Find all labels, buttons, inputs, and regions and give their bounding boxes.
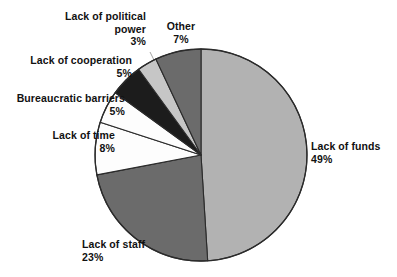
slice-label-bureaucratic-barriers: Bureaucratic barriers 5% <box>8 92 125 117</box>
slice-label-percent: 49% <box>311 153 381 166</box>
pie-slice-lack-of-funds[interactable] <box>201 49 307 261</box>
slice-label-name: Lack of cooperation <box>30 54 132 66</box>
slice-label-other: Other 7% <box>156 20 206 45</box>
slice-label-lack-of-political-power: Lack of political power 3% <box>56 10 146 48</box>
slice-label-percent: 5% <box>8 105 125 118</box>
slice-label-percent: 5% <box>24 67 132 80</box>
slice-label-name: Bureaucratic barriers <box>17 92 125 104</box>
slice-label-lack-of-cooperation: Lack of cooperation 5% <box>24 54 132 79</box>
slice-label-percent: 3% <box>56 35 146 48</box>
pie-chart-figure: Lack of funds 49% Lack of staff 23% Lack… <box>0 0 397 277</box>
slice-label-name: Lack of staff <box>82 238 145 250</box>
slice-label-lack-of-staff: Lack of staff 23% <box>82 238 145 263</box>
pie-slices <box>95 49 307 261</box>
slice-label-name: Other <box>167 20 196 32</box>
slice-label-percent: 8% <box>37 142 115 155</box>
slice-label-percent: 23% <box>82 251 145 264</box>
slice-label-lack-of-time: Lack of time 8% <box>37 129 115 154</box>
slice-label-name-line1: Lack of political <box>65 10 146 22</box>
slice-label-name-line2: power <box>115 23 146 35</box>
slice-label-name: Lack of time <box>53 129 115 141</box>
slice-label-percent: 7% <box>156 33 206 46</box>
slice-label-name: Lack of funds <box>311 140 381 152</box>
slice-label-lack-of-funds: Lack of funds 49% <box>311 140 381 165</box>
